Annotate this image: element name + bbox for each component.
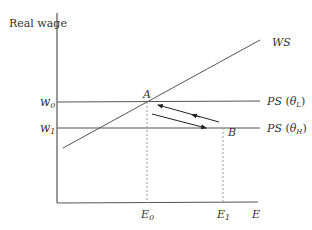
ps-theta-low-line — [57, 101, 260, 102]
point-b-label: B — [227, 126, 236, 139]
w1-label: w1 — [40, 121, 55, 136]
y-axis-label: Real wage — [9, 17, 67, 30]
w0-label: w0 — [40, 95, 55, 110]
e0-label: E0 — [140, 208, 154, 222]
arrow-back-mid — [192, 115, 200, 117]
point-a-label: A — [142, 88, 151, 101]
ps-theta-low-label: PS (θL) — [266, 95, 305, 109]
labour-market-diagram: Real wage w0 w1 E0 E1 E A B WS PS (θL) P… — [0, 0, 312, 230]
ws-label: WS — [272, 36, 291, 49]
arrow-back-to-a — [158, 105, 219, 122]
x-axis — [57, 202, 258, 203]
ps-theta-high-label: PS (θH) — [266, 122, 307, 136]
x-axis-label: E — [251, 208, 260, 221]
e1-label: E1 — [216, 208, 230, 222]
